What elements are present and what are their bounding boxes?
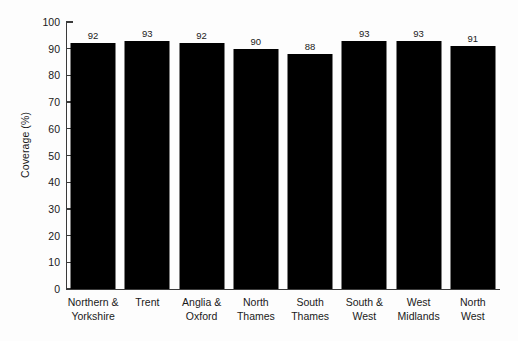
y-axis-tick-label: 0 <box>34 283 60 295</box>
y-axis-title-text: Coverage (%) <box>19 112 31 178</box>
bar-value-label: 88 <box>305 41 316 52</box>
bar-group[interactable]: 90 <box>229 22 283 289</box>
bar-value-label: 91 <box>468 33 479 44</box>
y-axis-tick-label: 60 <box>34 123 60 135</box>
category-label-line1: Anglia & <box>182 296 221 308</box>
x-axis-category-label: SouthThames <box>283 296 337 323</box>
x-axis-category-label: Northern &Yorkshire <box>66 296 120 323</box>
category-label-line1: West <box>407 296 431 308</box>
y-axis-tick-label: 70 <box>34 96 60 108</box>
bar-value-label: 92 <box>196 30 207 41</box>
category-label-line1: South <box>296 296 323 308</box>
bar-group[interactable]: 92 <box>66 22 120 289</box>
x-axis-category-label: South &West <box>337 296 391 323</box>
category-label-line1: North <box>243 296 269 308</box>
x-axis-category-labels: Northern &YorkshireTrentAnglia &OxfordNo… <box>66 296 500 336</box>
bar-group[interactable]: 88 <box>283 22 337 289</box>
bar-value-label: 93 <box>359 28 370 39</box>
category-label-line2: Midlands <box>392 310 446 324</box>
bar[interactable] <box>179 43 224 289</box>
y-axis-tick-label: 30 <box>34 203 60 215</box>
bar-group[interactable]: 93 <box>337 22 391 289</box>
bar[interactable] <box>233 49 278 289</box>
bar-group[interactable]: 93 <box>392 22 446 289</box>
bar-value-label: 92 <box>88 30 99 41</box>
category-label-line2: West <box>337 310 391 324</box>
bar-value-label: 90 <box>251 36 262 47</box>
plot-area: 9293929088939391 <box>66 22 500 289</box>
y-axis-tick-label: 100 <box>34 16 60 28</box>
bar[interactable] <box>396 41 441 289</box>
y-axis-tick-label: 20 <box>34 230 60 242</box>
category-label-line2: Yorkshire <box>66 310 120 324</box>
x-axis-category-label: NorthThames <box>229 296 283 323</box>
bar[interactable] <box>342 41 387 289</box>
category-label-line2: West <box>446 310 500 324</box>
category-label-line2: Thames <box>283 310 337 324</box>
y-axis-tick-label: 90 <box>34 43 60 55</box>
bar[interactable] <box>125 41 170 289</box>
bar-group[interactable]: 91 <box>446 22 500 289</box>
bar[interactable] <box>450 46 495 289</box>
x-axis-category-label: Trent <box>120 296 174 310</box>
x-axis-category-label: Anglia &Oxford <box>175 296 229 323</box>
y-axis-tick-label: 40 <box>34 176 60 188</box>
y-axis-tick-label: 50 <box>34 150 60 162</box>
bar-group[interactable]: 93 <box>120 22 174 289</box>
y-axis-tick-label: 10 <box>34 256 60 268</box>
category-label-line1: North <box>460 296 486 308</box>
category-label-line1: South & <box>346 296 383 308</box>
x-axis-category-label: WestMidlands <box>392 296 446 323</box>
x-axis-category-label: NorthWest <box>446 296 500 323</box>
y-axis-tick-label: 80 <box>34 69 60 81</box>
y-axis-tick-labels: 1009080706050403020100 <box>32 0 60 341</box>
y-axis-title: Coverage (%) <box>14 0 36 290</box>
category-label-line2: Oxford <box>175 310 229 324</box>
bar[interactable] <box>288 54 333 289</box>
category-label-line1: Northern & <box>68 296 119 308</box>
bar[interactable] <box>71 43 116 289</box>
category-label-line1: Trent <box>135 296 159 308</box>
bar-chart: Coverage (%) 1009080706050403020100 9293… <box>0 0 518 341</box>
bar-value-label: 93 <box>142 28 153 39</box>
bar-value-label: 93 <box>413 28 424 39</box>
category-label-line2: Thames <box>229 310 283 324</box>
bar-group[interactable]: 92 <box>175 22 229 289</box>
